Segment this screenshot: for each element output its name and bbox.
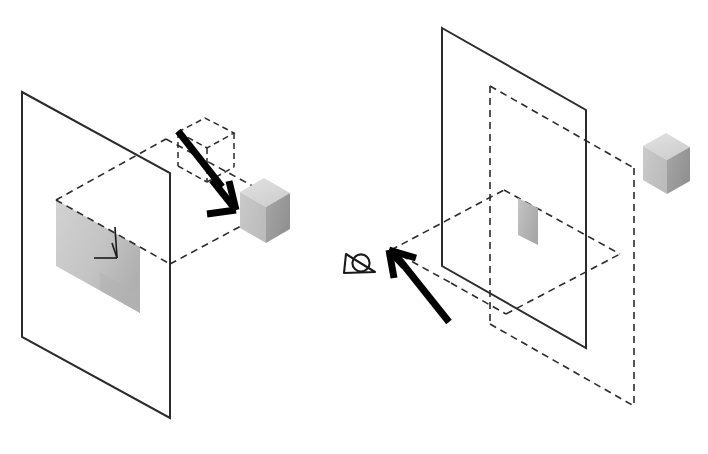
back-plane-dashed bbox=[490, 86, 634, 406]
ghost-cube-dashed bbox=[178, 118, 234, 182]
solid-cube bbox=[643, 133, 690, 194]
figure-root: Projection geometry: object, projection … bbox=[0, 0, 708, 454]
solid-cube bbox=[240, 178, 290, 243]
projected-shadow-region bbox=[56, 200, 140, 313]
projection-geometry-figure: Projection geometry: object, projection … bbox=[0, 0, 708, 454]
projection-direction-arrow bbox=[178, 131, 236, 214]
projected-patch bbox=[518, 198, 538, 245]
eye-icon bbox=[344, 254, 375, 273]
image-plane bbox=[442, 28, 586, 348]
right-panel bbox=[344, 28, 690, 406]
left-panel bbox=[22, 92, 290, 418]
viewing-direction-arrow bbox=[389, 250, 449, 322]
